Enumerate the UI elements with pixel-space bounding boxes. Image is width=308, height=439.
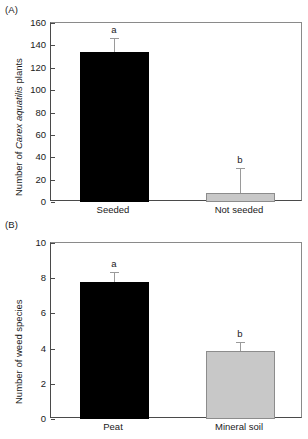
y-tick-label: 100 [30, 85, 46, 95]
x-tick-label: Mineral soil [215, 422, 263, 432]
y-tick-mark [51, 113, 55, 114]
bar-seeded [80, 52, 149, 202]
y-tick-mark [51, 243, 55, 244]
y-tick-mark [51, 90, 55, 91]
y-tick-label: 8 [41, 273, 46, 283]
significance-letter: a [111, 259, 116, 269]
panel-a-y-axis-title-prefix: Number of [13, 149, 24, 196]
y-tick-label: 10 [35, 238, 46, 248]
bar-peat [80, 282, 149, 419]
error-bar-cap [236, 168, 245, 169]
x-tick-label: Not seeded [215, 205, 264, 215]
y-tick-label: 160 [30, 18, 46, 28]
panel-b: (B) Number of weed species 0246810ab Pea… [0, 216, 308, 439]
y-tick-label: 140 [30, 41, 46, 51]
y-tick-mark [51, 349, 55, 350]
y-tick-label: 4 [41, 344, 46, 354]
panel-a-y-axis-title: Number of Carex aquatilis plants [13, 58, 24, 196]
error-bar [114, 272, 115, 282]
error-bar [114, 38, 115, 53]
y-tick-mark [51, 135, 55, 136]
y-tick-label: 60 [35, 130, 46, 140]
panel-b-y-axis-title-prefix: Number of weed species [13, 299, 24, 404]
y-tick-mark [51, 384, 55, 385]
y-tick-mark [51, 23, 55, 24]
y-tick-mark [51, 313, 55, 314]
panel-b-plot-area: 0246810ab [50, 242, 302, 418]
y-tick-label: 120 [30, 63, 46, 73]
y-tick-mark [51, 180, 55, 181]
y-tick-mark [51, 45, 55, 46]
error-bar-cap [110, 38, 119, 39]
y-tick-mark [51, 419, 55, 420]
significance-letter: b [237, 329, 242, 339]
error-bar [240, 168, 241, 193]
error-bar-cap [236, 342, 245, 343]
panel-a: (A) Number of Carex aquatilis plants 020… [0, 0, 308, 219]
y-tick-mark [51, 68, 55, 69]
y-tick-label: 0 [41, 414, 46, 424]
panel-b-y-axis-title: Number of weed species [13, 299, 24, 404]
y-tick-label: 40 [35, 153, 46, 163]
bar-mineral-soil [206, 351, 275, 419]
y-tick-label: 80 [35, 108, 46, 118]
y-tick-label: 2 [41, 379, 46, 389]
figure-two-panel-bar-chart: (A) Number of Carex aquatilis plants 020… [0, 0, 308, 439]
significance-letter: b [237, 155, 242, 165]
panel-a-plot-area: 020406080100120140160ab [50, 22, 302, 201]
y-tick-mark [51, 202, 55, 203]
bar-not-seeded [206, 193, 275, 202]
significance-letter: a [111, 25, 116, 35]
y-tick-mark [51, 157, 55, 158]
panel-a-y-axis-title-suffix: plants [13, 58, 24, 86]
error-bar-cap [110, 272, 119, 273]
x-tick-label: Peat [103, 422, 123, 432]
y-tick-label: 0 [41, 197, 46, 207]
panel-b-tag: (B) [5, 219, 18, 230]
x-tick-label: Seeded [97, 205, 130, 215]
panel-a-y-axis-title-species: Carex aquatilis [13, 86, 24, 149]
y-tick-mark [51, 278, 55, 279]
y-tick-label: 6 [41, 309, 46, 319]
panel-a-tag: (A) [5, 4, 18, 15]
y-tick-label: 20 [35, 175, 46, 185]
error-bar [240, 342, 241, 351]
